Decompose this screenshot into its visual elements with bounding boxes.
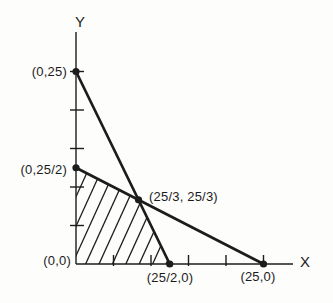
point-marker [260, 260, 267, 267]
lp-feasible-region-figure: (0,25) (0,25/2) (25/3, 25/3) (0,0) (25/2… [0, 0, 333, 303]
point-label-25-over-2-0: (25/2,0) [147, 270, 193, 285]
constraint-line-2 [76, 168, 264, 264]
point-marker [72, 68, 79, 75]
point-marker [135, 196, 142, 203]
hatch-line [136, 158, 188, 272]
point-marker [72, 164, 79, 171]
y-axis-label: Y [75, 14, 85, 30]
hatch-line [109, 158, 161, 272]
point-marker [166, 260, 173, 267]
constraint-line-1 [76, 72, 170, 265]
point-label-0-25: (0,25) [32, 64, 67, 79]
x-axis-label: X [300, 254, 310, 270]
hatch-line [176, 158, 228, 272]
hatch-line [95, 158, 147, 272]
point-label-intersection: (25/3, 25/3) [149, 189, 218, 204]
point-label-origin: (0,0) [43, 253, 71, 268]
point-label-0-25-over-2: (0,25/2) [21, 162, 67, 177]
hatch-line [149, 158, 201, 272]
point-label-25-0: (25,0) [240, 269, 275, 284]
